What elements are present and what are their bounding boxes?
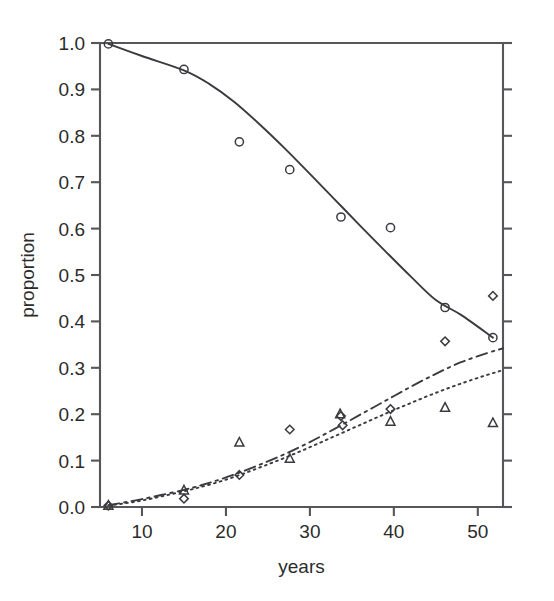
x-tick-label: 40: [383, 521, 404, 542]
y-tick-label: 0.1: [59, 451, 85, 472]
y-axis-title: proportion: [17, 232, 38, 318]
y-tick-label: 1.0: [59, 33, 85, 54]
x-tick-label: 50: [467, 521, 488, 542]
y-tick-label: 0.8: [59, 126, 85, 147]
y-tick-label: 0.5: [59, 265, 85, 286]
x-tick-label: 10: [131, 521, 152, 542]
x-tick-label: 20: [215, 521, 236, 542]
y-tick-label: 0.0: [59, 497, 85, 518]
scatter-plot: 1020304050 0.00.10.20.30.40.50.60.70.80.…: [0, 0, 554, 601]
x-axis-title: years: [278, 556, 324, 577]
x-tick-label: 30: [299, 521, 320, 542]
y-tick-label: 0.6: [59, 219, 85, 240]
y-tick-label: 0.4: [59, 311, 86, 332]
chart-figure: 1020304050 0.00.10.20.30.40.50.60.70.80.…: [0, 0, 554, 601]
y-tick-label: 0.9: [59, 79, 85, 100]
y-tick-label: 0.2: [59, 404, 85, 425]
y-tick-label: 0.3: [59, 358, 85, 379]
y-tick-label: 0.7: [59, 172, 85, 193]
